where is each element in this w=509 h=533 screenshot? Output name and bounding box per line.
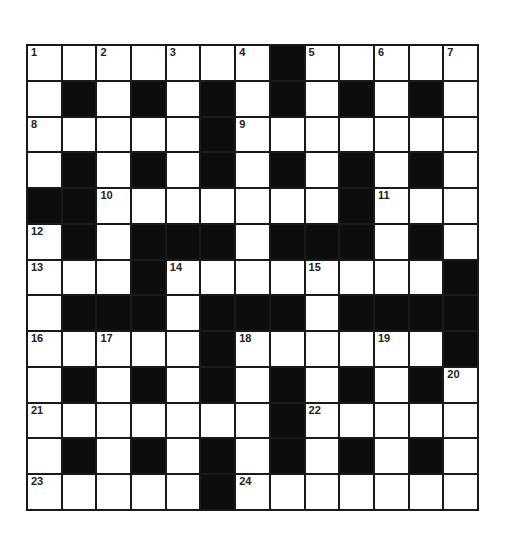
answer-cell[interactable]: 12 [28, 225, 61, 259]
answer-cell[interactable]: 14 [167, 261, 200, 295]
answer-cell[interactable] [271, 118, 304, 152]
answer-cell[interactable] [201, 189, 234, 223]
answer-cell[interactable]: 18 [236, 332, 269, 366]
answer-cell[interactable] [410, 332, 443, 366]
answer-cell[interactable]: 3 [167, 46, 200, 80]
answer-cell[interactable] [97, 118, 130, 152]
answer-cell[interactable]: 15 [306, 261, 339, 295]
answer-cell[interactable] [375, 225, 408, 259]
answer-cell[interactable] [167, 404, 200, 438]
answer-cell[interactable] [63, 475, 96, 509]
answer-cell[interactable]: 22 [306, 404, 339, 438]
answer-cell[interactable]: 7 [444, 46, 477, 80]
answer-cell[interactable] [444, 82, 477, 116]
answer-cell[interactable] [236, 368, 269, 402]
answer-cell[interactable] [410, 118, 443, 152]
answer-cell[interactable] [306, 439, 339, 473]
answer-cell[interactable] [340, 332, 373, 366]
answer-cell[interactable] [236, 225, 269, 259]
answer-cell[interactable] [132, 404, 165, 438]
answer-cell[interactable] [410, 475, 443, 509]
answer-cell[interactable] [132, 332, 165, 366]
answer-cell[interactable]: 13 [28, 261, 61, 295]
answer-cell[interactable] [306, 332, 339, 366]
answer-cell[interactable] [167, 332, 200, 366]
answer-cell[interactable] [132, 189, 165, 223]
answer-cell[interactable] [167, 368, 200, 402]
answer-cell[interactable] [167, 189, 200, 223]
answer-cell[interactable] [28, 439, 61, 473]
answer-cell[interactable]: 24 [236, 475, 269, 509]
answer-cell[interactable] [132, 118, 165, 152]
answer-cell[interactable]: 16 [28, 332, 61, 366]
answer-cell[interactable] [340, 475, 373, 509]
answer-cell[interactable] [340, 46, 373, 80]
answer-cell[interactable] [28, 153, 61, 187]
answer-cell[interactable] [340, 118, 373, 152]
answer-cell[interactable] [201, 46, 234, 80]
answer-cell[interactable] [63, 261, 96, 295]
answer-cell[interactable] [167, 475, 200, 509]
answer-cell[interactable] [444, 153, 477, 187]
answer-cell[interactable]: 19 [375, 332, 408, 366]
answer-cell[interactable] [167, 153, 200, 187]
answer-cell[interactable] [375, 261, 408, 295]
answer-cell[interactable] [201, 261, 234, 295]
answer-cell[interactable] [63, 404, 96, 438]
answer-cell[interactable] [444, 225, 477, 259]
answer-cell[interactable] [63, 118, 96, 152]
answer-cell[interactable] [236, 82, 269, 116]
answer-cell[interactable] [236, 404, 269, 438]
answer-cell[interactable] [167, 296, 200, 330]
answer-cell[interactable] [28, 296, 61, 330]
answer-cell[interactable]: 8 [28, 118, 61, 152]
answer-cell[interactable] [97, 439, 130, 473]
answer-cell[interactable] [444, 439, 477, 473]
answer-cell[interactable] [375, 153, 408, 187]
answer-cell[interactable] [97, 225, 130, 259]
answer-cell[interactable] [28, 368, 61, 402]
answer-cell[interactable]: 1 [28, 46, 61, 80]
answer-cell[interactable] [201, 404, 234, 438]
answer-cell[interactable] [340, 404, 373, 438]
answer-cell[interactable] [375, 404, 408, 438]
answer-cell[interactable]: 9 [236, 118, 269, 152]
answer-cell[interactable]: 17 [97, 332, 130, 366]
answer-cell[interactable] [167, 439, 200, 473]
answer-cell[interactable] [132, 46, 165, 80]
answer-cell[interactable] [306, 189, 339, 223]
answer-cell[interactable] [444, 475, 477, 509]
answer-cell[interactable]: 10 [97, 189, 130, 223]
answer-cell[interactable] [306, 82, 339, 116]
answer-cell[interactable] [236, 261, 269, 295]
answer-cell[interactable] [97, 404, 130, 438]
answer-cell[interactable] [28, 82, 61, 116]
answer-cell[interactable] [375, 118, 408, 152]
answer-cell[interactable] [444, 118, 477, 152]
answer-cell[interactable] [271, 475, 304, 509]
answer-cell[interactable] [97, 82, 130, 116]
answer-cell[interactable] [167, 118, 200, 152]
answer-cell[interactable] [410, 404, 443, 438]
answer-cell[interactable]: 2 [97, 46, 130, 80]
answer-cell[interactable] [97, 153, 130, 187]
answer-cell[interactable]: 23 [28, 475, 61, 509]
answer-cell[interactable] [306, 153, 339, 187]
answer-cell[interactable] [306, 118, 339, 152]
answer-cell[interactable] [340, 261, 373, 295]
answer-cell[interactable] [132, 475, 165, 509]
answer-cell[interactable] [444, 404, 477, 438]
answer-cell[interactable] [97, 368, 130, 402]
answer-cell[interactable] [410, 189, 443, 223]
answer-cell[interactable] [410, 261, 443, 295]
answer-cell[interactable] [236, 153, 269, 187]
answer-cell[interactable] [97, 475, 130, 509]
answer-cell[interactable]: 20 [444, 368, 477, 402]
answer-cell[interactable] [375, 475, 408, 509]
answer-cell[interactable] [97, 261, 130, 295]
answer-cell[interactable] [306, 368, 339, 402]
answer-cell[interactable]: 11 [375, 189, 408, 223]
answer-cell[interactable] [375, 439, 408, 473]
answer-cell[interactable] [444, 189, 477, 223]
answer-cell[interactable] [63, 46, 96, 80]
